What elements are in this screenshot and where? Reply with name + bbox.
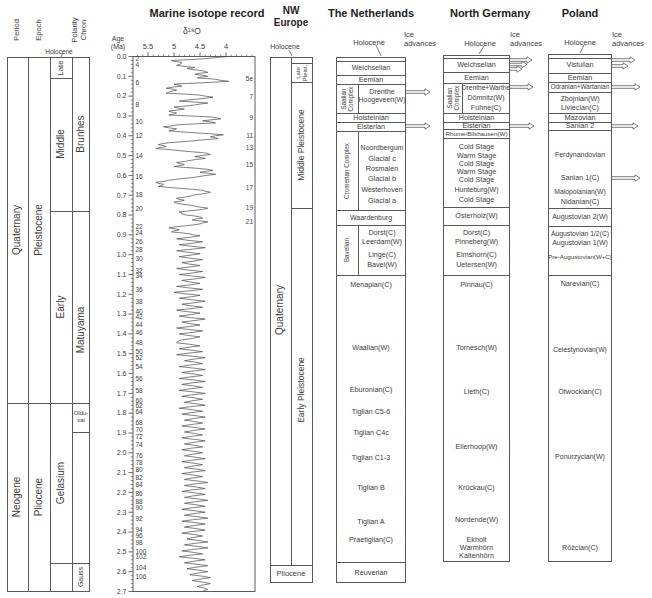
netherlands-title: The Netherlands [328, 7, 414, 20]
poland-title: Poland [562, 7, 599, 20]
netherlands-subcolumn-label: Bavelian [343, 238, 350, 262]
mis-label-right: 19 [246, 204, 254, 211]
divider-line [443, 225, 510, 226]
holocene-label-poland: Holocene [564, 39, 596, 48]
ice-advance-arrow-poland [612, 63, 628, 69]
north-germany-unit-label: Krückau(C) [458, 484, 494, 492]
mis-label-left: 24 [136, 229, 144, 236]
marine-isotope-title: Marine isotope record [150, 7, 265, 20]
mis-label-left: 36 [136, 286, 144, 293]
ice-advance-arrow-north-germany [510, 61, 527, 67]
age-tick-label: 2.4 [117, 528, 127, 535]
mis-label-left: 56 [136, 375, 144, 382]
mis-label-left: 6 [136, 79, 140, 86]
holocene-label-nw-europe: Holocene [270, 43, 300, 51]
divider-line [336, 61, 406, 62]
mis-label-left: 46 [136, 329, 144, 336]
age-tick-label: 2.6 [117, 568, 127, 575]
holocene-label-netherlands: Holocene [353, 39, 385, 48]
netherlands-unit-label: Glacial c [368, 155, 396, 163]
poland-unit-label: Ponurzycian(W) [555, 453, 605, 461]
mis-label-left: 60 [136, 397, 144, 404]
poland-unit-label: Narevian(C) [561, 280, 600, 288]
age-tick-label: 1.0 [117, 251, 127, 258]
mis-label-left: 70 [136, 426, 144, 433]
age-tick-label: 0.5 [117, 152, 127, 159]
divider-line [291, 57, 292, 565]
north-germany-unit-label: Pinnau(C) [460, 281, 492, 289]
chronostratigraphy-table-label: Early [55, 296, 67, 319]
mis-label-left: 48 [136, 339, 144, 346]
mis-label-right: 21 [246, 218, 254, 225]
nw-europe-column-label: Quaternary [274, 285, 286, 335]
north-germany-unit-label: Weichselian [457, 61, 496, 69]
poland-unit-label: Odranian+Wartanian [551, 83, 610, 90]
mis-label-left: 4 [136, 61, 140, 68]
age-tick-label: 0.1 [117, 73, 127, 80]
age-tick-label: 2.2 [117, 489, 127, 496]
divider-line [50, 57, 51, 592]
north-germany-unit-label: Elmshorn(C) [456, 251, 496, 259]
mis-label-left: 106 [136, 573, 147, 580]
poland-unit-label: Różcian(C) [562, 544, 598, 552]
age-tick-label: 1.8 [117, 409, 127, 416]
mis-label-right: 5e [246, 75, 254, 82]
stratigraphic-correlation-chart: Marine isotope record NW Europe The Neth… [0, 0, 652, 598]
age-tick-label: 0.2 [117, 92, 127, 99]
poland-unit-label: Nidanian(C) [561, 198, 599, 206]
netherlands-unit-label: Reuverian [355, 568, 388, 576]
mis-label-left: 50 [136, 348, 144, 355]
poland-unit-label: Malopolanian(W) [554, 188, 605, 196]
ice-advances-label-north-germany: Ice advances [510, 30, 542, 48]
mis-label-left: 84 [136, 481, 144, 488]
poland-unit-label: Liviecian(C) [561, 104, 599, 112]
north-germany-unit-label: Hunteburg(W) [455, 186, 499, 194]
poland-unit-label: Celestynovian(W) [553, 346, 607, 354]
mis-label-left: 10 [136, 118, 144, 125]
age-axis-label: Age (Ma) [111, 35, 125, 51]
mis-label-left: 90 [136, 504, 144, 511]
divider-line [336, 562, 406, 563]
ice-advance-arrow-north-germany [510, 84, 533, 90]
netherlands-unit-label: Waardenburg [350, 213, 392, 221]
chronostratigraphy-table-label: Neogene [11, 477, 23, 518]
north-germany-subcolumn-label: Saalian Complex [445, 86, 459, 111]
plot-frame [133, 57, 255, 592]
nw-europe-column-label: Early Pleistocene [297, 357, 307, 423]
nw-europe-column-label: Late Pleist. [295, 64, 309, 80]
poland-unit-label: Eemian [568, 73, 592, 81]
mis-label-right: 17 [246, 184, 254, 191]
poland-unit-label: Augustovian 1/2(C) [551, 230, 609, 238]
mis-label-left: 34 [136, 272, 144, 279]
poland-unit-label: Sanian 2 [566, 122, 594, 130]
isotope-curve [156, 57, 229, 592]
ice-advance-arrow-poland [612, 123, 638, 129]
north-germany-unit-label: Drenthe+Warthe [462, 84, 510, 92]
divider-line [291, 208, 313, 209]
divider-line [548, 130, 612, 131]
mis-label-left: 16 [136, 173, 144, 180]
north-germany-unit-label: Eemian [464, 73, 488, 81]
mis-label-left: 96 [136, 532, 144, 539]
north-germany-unit-label: Dorst(C) [463, 229, 490, 237]
netherlands-unit-label: Bavel(W) [367, 261, 397, 269]
ice-advances-label-poland: Ice advances [612, 30, 644, 48]
north-germany-unit-label: Ellerhoop(W) [456, 443, 498, 451]
mis-label-left: 22 [136, 223, 144, 230]
netherlands-unit-label: Tiglian C1-3 [352, 454, 390, 462]
chronostratigraphy-table-label: Matuyama [75, 307, 87, 354]
mis-label-right: 13 [246, 144, 254, 151]
mis-label-left: 14 [136, 152, 144, 159]
north-germany-title: North Germany [450, 7, 530, 20]
netherlands-column-border [336, 57, 406, 583]
age-tick-label: 1.4 [117, 330, 127, 337]
mis-label-left: 54 [136, 363, 144, 370]
mis-label-right: 15 [246, 161, 254, 168]
d18o-tick-label: 4 [224, 42, 228, 51]
divider-line [50, 211, 90, 212]
mis-label-left: 30 [136, 255, 144, 262]
chronostratigraphy-table-label: Quaternary [11, 205, 23, 255]
mis-label-left: 20 [136, 205, 144, 212]
ice-advance-arrow-poland [612, 57, 635, 63]
age-tick-label: 0.7 [117, 192, 127, 199]
